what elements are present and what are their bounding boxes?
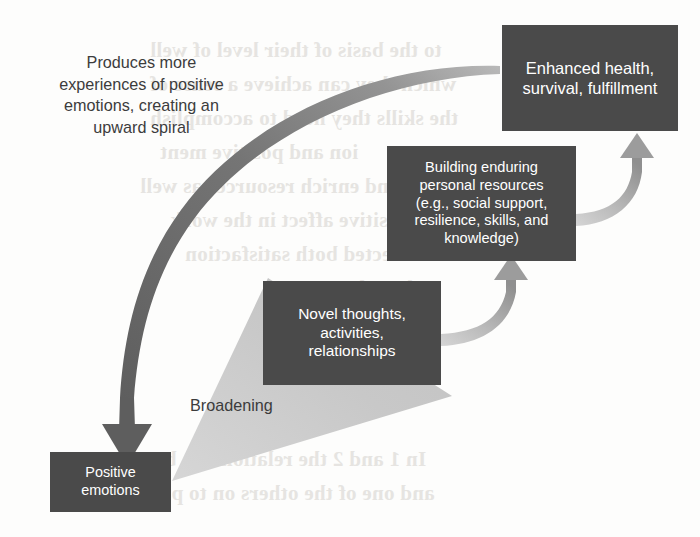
label-line: (e.g., social support, [416,195,547,211]
caption-line: upward spiral [93,118,189,136]
building-to-enhanced-arrowhead [620,133,654,158]
node-novel-thoughts-label: Novel thoughts, activities, relationship… [298,305,406,362]
node-positive-emotions-label: Positive emotions [81,464,139,499]
label-line: relationships [308,342,395,359]
node-enhanced-health[interactable]: Enhanced health, survival, fulfillment [502,25,678,131]
label-line: Building enduring [425,159,538,175]
node-novel-thoughts[interactable]: Novel thoughts, activities, relationship… [263,281,441,385]
caption-line: Produces more [87,53,197,71]
bleed-line: and one of the others on to para [140,481,435,506]
building-to-enhanced-arrow [576,133,654,226]
node-building-resources[interactable]: Building enduring personal resources (e.… [387,146,576,261]
caption-line: experiences of positive [59,75,224,93]
label-line: Novel thoughts, [298,305,406,322]
label-line: personal resources [419,177,543,193]
node-positive-emotions[interactable]: Positive emotions [50,452,171,512]
label-line: survival, fulfillment [523,79,658,97]
label-line: emotions [81,482,139,498]
label-line: resilience, skills, and [415,212,549,228]
label-line: Positive [85,464,135,480]
novel-to-building-arrow [441,255,528,346]
node-building-resources-label: Building enduring personal resources (e.… [415,159,549,248]
bleed-line: ion and positive ment [160,140,358,165]
caption-broadening: Broadening [190,396,273,415]
label-line: knowledge) [444,230,519,246]
caption-line: emotions, creating an [64,96,219,114]
diagram-canvas: to the basis of their level of well whic… [0,0,700,537]
caption-upward-spiral: Produces more experiences of positive em… [24,52,259,138]
label-line: Enhanced health, [526,59,654,77]
label-line: activities, [320,324,384,341]
node-enhanced-health-label: Enhanced health, survival, fulfillment [523,58,658,98]
bleed-line: affected both satisfaction [185,242,417,267]
bleed-line: In 1 and 2 the relationship be [155,447,426,472]
